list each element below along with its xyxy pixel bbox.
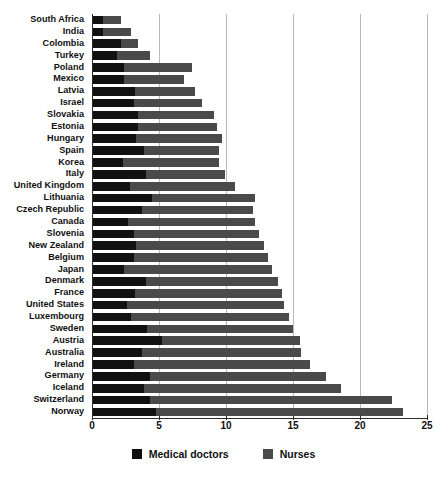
bar-segment-medical-doctors (92, 384, 144, 393)
bar-segment-medical-doctors (92, 313, 131, 322)
plot-area (92, 14, 427, 418)
bar-row (92, 14, 427, 26)
stacked-bar (92, 301, 284, 310)
stacked-bar (92, 111, 214, 120)
bar-row (92, 133, 427, 145)
y-axis-label: Lithuania (44, 192, 84, 204)
bar-row (92, 204, 427, 216)
bar-row (92, 216, 427, 228)
stacked-bar (92, 336, 300, 345)
x-tick-label-15: 15 (287, 420, 298, 431)
x-tick-mark-5 (159, 415, 160, 420)
bar-segment-medical-doctors (92, 87, 135, 96)
bar-row (92, 252, 427, 264)
y-axis-label: Austria (53, 335, 84, 347)
stacked-bar (92, 348, 301, 357)
stacked-bar (92, 408, 403, 417)
bar-segment-medical-doctors (92, 28, 103, 37)
stacked-bar (92, 325, 293, 334)
bar-row (92, 85, 427, 97)
stacked-bar (92, 63, 193, 72)
x-tick-label-10: 10 (220, 420, 231, 431)
stacked-bar (92, 28, 131, 37)
bar-row (92, 335, 427, 347)
y-axis-label: Slovakia (47, 109, 84, 121)
bar-row (92, 168, 427, 180)
bar-row (92, 73, 427, 85)
bar-segment-medical-doctors (92, 348, 142, 357)
y-axis-label: Germany (45, 370, 84, 382)
bar-row (92, 157, 427, 169)
bar-segment-nurses (134, 253, 268, 262)
y-axis-label: Luxembourg (29, 311, 84, 323)
bar-row (92, 359, 427, 371)
y-axis-label: Australia (45, 347, 84, 359)
bar-row (92, 228, 427, 240)
x-tick-mark-10 (226, 415, 227, 420)
stacked-bar (92, 158, 219, 167)
bar-row (92, 299, 427, 311)
y-axis-label: Spain (59, 145, 84, 157)
bar-row (92, 145, 427, 157)
bar-segment-nurses (136, 134, 222, 143)
stacked-bar (92, 51, 150, 60)
bar-segment-medical-doctors (92, 123, 138, 132)
bar-segment-nurses (156, 408, 403, 417)
bar-segment-nurses (135, 87, 195, 96)
bar-segment-nurses (144, 384, 341, 393)
bar-segment-medical-doctors (92, 218, 128, 227)
bar-segment-medical-doctors (92, 194, 152, 203)
bar-segment-nurses (136, 241, 263, 250)
bar-row (92, 240, 427, 252)
y-axis-label: Belgium (48, 252, 84, 264)
stacked-bar (92, 218, 255, 227)
y-axis-label: Korea (58, 157, 84, 169)
chart-container: South AfricaIndiaColombiaTurkeyPolandMex… (0, 0, 447, 478)
stacked-bar (92, 16, 121, 25)
bar-segment-nurses (152, 194, 255, 203)
bar-row (92, 370, 427, 382)
bar-segment-medical-doctors (92, 408, 156, 417)
bar-segment-medical-doctors (92, 289, 135, 298)
legend-label-medical-doctors: Medical doctors (149, 448, 229, 460)
x-tick-mark-15 (293, 415, 294, 420)
bar-row (92, 311, 427, 323)
stacked-bar (92, 384, 341, 393)
bar-segment-medical-doctors (92, 301, 127, 310)
legend-item-nurses: Nurses (263, 448, 316, 460)
stacked-bar (92, 277, 278, 286)
bar-segment-medical-doctors (92, 277, 146, 286)
y-axis-label: South Africa (30, 14, 84, 26)
bar-segment-medical-doctors (92, 51, 117, 60)
bar-segment-medical-doctors (92, 182, 130, 191)
bar-segment-nurses (124, 75, 184, 84)
y-axis-label: United States (26, 299, 84, 311)
y-axis-label: Colombia (43, 38, 84, 50)
stacked-bar (92, 360, 310, 369)
bar-row (92, 275, 427, 287)
bar-segment-medical-doctors (92, 146, 144, 155)
bar-segment-nurses (138, 111, 214, 120)
bar-segment-nurses (162, 336, 300, 345)
y-axis-label: Mexico (53, 73, 84, 85)
x-axis-line (92, 418, 427, 419)
y-axis-label: Italy (66, 168, 84, 180)
bar-segment-nurses (127, 301, 284, 310)
chart-legend: Medical doctors Nurses (0, 448, 447, 460)
y-axis-label: Slovenia (47, 228, 84, 240)
bar-row (92, 38, 427, 50)
bar-row (92, 62, 427, 74)
bar-segment-medical-doctors (92, 158, 123, 167)
bar-row (92, 26, 427, 38)
bar-segment-medical-doctors (92, 111, 138, 120)
bar-segment-medical-doctors (92, 39, 121, 48)
stacked-bar (92, 75, 184, 84)
bar-segment-nurses (150, 396, 393, 405)
bar-segment-nurses (147, 325, 293, 334)
bar-segment-nurses (146, 277, 279, 286)
bar-segment-medical-doctors (92, 230, 134, 239)
legend-label-nurses: Nurses (280, 448, 316, 460)
y-axis-label: Ireland (54, 359, 84, 371)
bar-rows (92, 14, 427, 418)
gridline-25 (427, 14, 428, 418)
